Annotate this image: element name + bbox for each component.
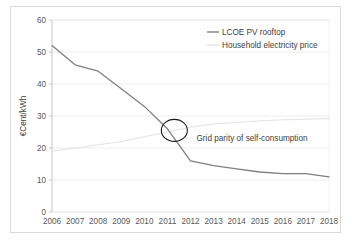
y-tick-label: 60	[37, 16, 47, 25]
y-axis-tick-labels: 0102030405060	[37, 16, 47, 217]
y-tick-label: 50	[37, 48, 47, 57]
y-tick-label: 40	[37, 80, 47, 89]
x-axis-tick-labels: 2006200720082009201020112012201320142015…	[43, 217, 339, 226]
line-chart: 0102030405060 20062007200820092010201120…	[0, 0, 349, 246]
x-tick-label: 2010	[135, 217, 154, 226]
x-tick-label: 2012	[181, 217, 200, 226]
x-tick-label: 2011	[159, 217, 177, 226]
y-tick-label: 0	[41, 208, 46, 217]
legend-label-1: Household electricity price	[222, 41, 318, 50]
y-tick-label: 10	[37, 176, 47, 185]
x-tick-label: 2016	[274, 217, 293, 226]
x-tick-label: 2014	[228, 217, 247, 226]
x-tick-label: 2007	[66, 217, 85, 226]
x-tick-label: 2013	[204, 217, 223, 226]
y-tick-label: 20	[37, 144, 47, 153]
x-tick-label: 2017	[297, 217, 316, 226]
legend-label-0: LCOE PV rooftop	[222, 28, 286, 37]
y-axis-title: €Cent/kWh	[19, 95, 28, 136]
annotation-label: Grid parity of self-consumption	[197, 134, 308, 143]
chart-figure: 0102030405060 20062007200820092010201120…	[0, 0, 349, 246]
x-tick-label: 2006	[43, 217, 62, 226]
x-tick-label: 2009	[112, 217, 131, 226]
x-tick-label: 2015	[251, 217, 270, 226]
y-tick-label: 30	[37, 112, 47, 121]
x-tick-label: 2018	[320, 217, 339, 226]
x-tick-label: 2008	[89, 217, 108, 226]
